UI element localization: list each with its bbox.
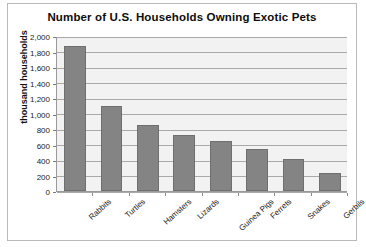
chart-title: Number of U.S. Households Owning Exotic … (8, 11, 356, 23)
y-axis-tick-label: 2,000 (6, 33, 50, 42)
bar (173, 135, 195, 191)
y-axis-tick-label: 600 (6, 141, 50, 150)
bar (101, 106, 123, 191)
x-axis-tick-mark (92, 193, 93, 196)
x-axis-tick-mark (238, 193, 239, 196)
bar (246, 149, 268, 191)
x-axis-tick-label: Snakes (305, 197, 331, 222)
y-axis-tick-label: 1,200 (6, 95, 50, 104)
x-axis-tick-mark (311, 193, 312, 196)
y-axis-tick-mark (53, 192, 56, 193)
bar (64, 46, 86, 191)
y-axis-tick-label: 1,400 (6, 79, 50, 88)
x-axis-tick-label: Turtles (123, 197, 147, 220)
bar (319, 173, 341, 191)
x-axis-tick-mark (274, 193, 275, 196)
plot-area (56, 37, 347, 192)
bar (137, 125, 159, 191)
y-axis-tick-label: 0 (6, 188, 50, 197)
x-axis-tick-mark (347, 193, 348, 196)
y-axis-tick-label: 1,600 (6, 64, 50, 73)
x-axis-tick-label: Gerbils (341, 197, 366, 221)
y-axis-tick-label: 800 (6, 126, 50, 135)
x-axis-tick-label: Rabbits (87, 197, 113, 222)
x-axis-tick-mark (129, 193, 130, 196)
bar (210, 141, 232, 191)
y-axis-tick-label: 1,800 (6, 48, 50, 57)
y-axis-tick-label: 200 (6, 172, 50, 181)
bar-series (57, 37, 347, 191)
x-axis-tick-label: Lizards (196, 197, 221, 221)
x-axis-tick-mark (202, 193, 203, 196)
x-axis-tick-mark (165, 193, 166, 196)
y-axis-tick-label: 1,000 (6, 110, 50, 119)
bar (283, 159, 305, 191)
x-axis-tick-label: Hamsters (162, 197, 193, 227)
chart-frame: Number of U.S. Households Owning Exotic … (7, 3, 357, 241)
y-axis-tick-label: 400 (6, 157, 50, 166)
